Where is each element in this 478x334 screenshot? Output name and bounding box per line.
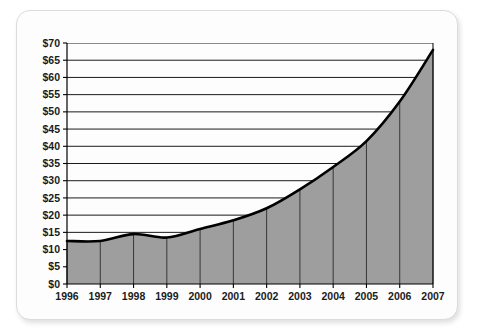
y-tick-label-25: $25 — [42, 192, 60, 204]
y-tick-label-20: $20 — [42, 209, 60, 221]
y-tick-label-15: $15 — [42, 226, 60, 238]
x-tick-label-1998: 1998 — [122, 290, 146, 302]
x-tick-label-2007: 2007 — [421, 290, 445, 302]
x-tick-label-2002: 2002 — [255, 290, 279, 302]
y-tick-label-55: $55 — [42, 88, 60, 100]
y-tick-label-0: $0 — [48, 278, 60, 290]
x-tick-label-2003: 2003 — [288, 290, 312, 302]
chart-card: $0$5$10$15$20$25$30$35$40$45$50$55$60$65… — [16, 10, 458, 320]
x-tick-label-2005: 2005 — [355, 290, 379, 302]
area-fill-group — [67, 50, 433, 284]
x-tick-label-1996: 1996 — [55, 290, 79, 302]
y-tick-label-60: $60 — [42, 71, 60, 83]
y-axis-tick-labels: $0$5$10$15$20$25$30$35$40$45$50$55$60$65… — [42, 37, 60, 290]
x-tick-label-2006: 2006 — [388, 290, 412, 302]
y-tick-label-50: $50 — [42, 105, 60, 117]
x-tick-label-1997: 1997 — [89, 290, 113, 302]
chart-svg: $0$5$10$15$20$25$30$35$40$45$50$55$60$65… — [17, 11, 459, 321]
y-tick-label-65: $65 — [42, 54, 60, 66]
y-tick-label-30: $30 — [42, 174, 60, 186]
y-tick-label-45: $45 — [42, 123, 60, 135]
y-tick-label-5: $5 — [48, 260, 60, 272]
x-axis-tick-labels: 1996199719981999200020012002200320042005… — [55, 290, 445, 302]
y-tick-label-10: $10 — [42, 243, 60, 255]
x-tick-label-1999: 1999 — [155, 290, 179, 302]
x-tick-label-2000: 2000 — [188, 290, 212, 302]
x-tick-label-2004: 2004 — [322, 290, 346, 302]
y-tick-label-40: $40 — [42, 140, 60, 152]
area-fill — [67, 50, 433, 284]
page-root: $0$5$10$15$20$25$30$35$40$45$50$55$60$65… — [0, 0, 478, 334]
area-chart: $0$5$10$15$20$25$30$35$40$45$50$55$60$65… — [17, 11, 459, 321]
x-tick-label-2001: 2001 — [222, 290, 246, 302]
y-tick-label-35: $35 — [42, 157, 60, 169]
y-tick-label-70: $70 — [42, 37, 60, 49]
